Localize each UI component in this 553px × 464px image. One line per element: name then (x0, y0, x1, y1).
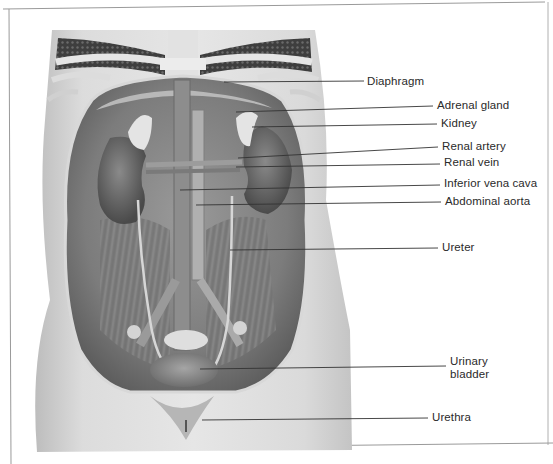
label-ureter: Ureter (442, 241, 475, 254)
urinary-bladder-shape (150, 353, 218, 387)
anatomy-figure: Diaphragm Adrenal gland Kidney Renal art… (0, 0, 553, 464)
label-inferior-vena-cava: Inferior vena cava (444, 177, 537, 190)
label-kidney: Kidney (441, 117, 477, 130)
anatomy-illustration (0, 0, 553, 464)
label-adrenal-gland: Adrenal gland (437, 99, 509, 112)
label-urethra: Urethra (432, 411, 471, 424)
label-renal-vein: Renal vein (444, 156, 499, 169)
label-diaphragm: Diaphragm (367, 75, 424, 88)
label-urinary-bladder: Urinary bladder (450, 355, 510, 381)
label-renal-artery: Renal artery (442, 140, 506, 153)
label-abdominal-aorta: Abdominal aorta (445, 195, 530, 208)
